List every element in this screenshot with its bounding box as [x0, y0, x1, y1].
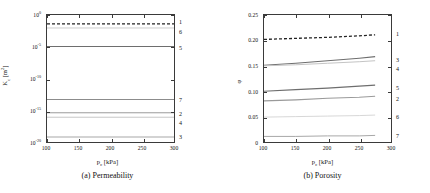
axis-tick [112, 15, 113, 18]
x-axis-title: pc [kPa] [97, 158, 118, 165]
panel-porosity: 0.25 0.20 0.15 0.10 0.05 0 100 150 200 2… [215, 0, 430, 193]
y-axis-title: Kc [m2] [1, 66, 8, 86]
axis-tick [47, 139, 48, 142]
axis-tick [171, 15, 174, 16]
curve-6 [264, 115, 375, 117]
curves-permeability [47, 15, 174, 142]
curve-label: 5 [179, 45, 182, 51]
curve-label: 7 [396, 133, 399, 139]
y-axis-title: φ [235, 80, 242, 84]
ytick-label: 10-5 [8, 44, 41, 50]
axis-tick [296, 139, 297, 142]
axis-tick [388, 67, 391, 68]
plot-area-porosity [263, 14, 392, 143]
axis-tick [47, 80, 50, 81]
curve-label: 7 [179, 97, 182, 103]
axis-tick [264, 15, 267, 16]
panel-caption: (b) Porosity [215, 171, 430, 180]
curves-svg-a [47, 15, 174, 142]
xtick-label: 200 [323, 145, 331, 151]
curve-1 [264, 35, 375, 40]
curve-7 [264, 135, 375, 136]
axis-tick [388, 41, 391, 42]
axis-tick [329, 139, 330, 142]
axis-tick [112, 139, 113, 142]
curve-label: 4 [179, 120, 182, 126]
ytick-label: 10-10 [8, 76, 41, 82]
axis-tick [79, 15, 80, 18]
ytick-label: 0.15 [225, 63, 258, 69]
axis-tick [264, 118, 267, 119]
curve-5 [264, 85, 375, 91]
ytick-label: 0.05 [225, 114, 258, 120]
axis-tick [361, 139, 362, 142]
axis-tick [47, 15, 50, 16]
ytick-label: 100 [8, 12, 41, 18]
xtick-label: 250 [138, 145, 146, 151]
ytick-label: 0.25 [225, 12, 258, 18]
axis-tick [264, 41, 267, 42]
panel-permeability: 100 10-5 10-10 10-15 10-20 100 150 200 2… [0, 0, 215, 193]
axis-tick [264, 92, 267, 93]
curve-2 [264, 96, 375, 101]
curve-label: 1 [179, 19, 182, 25]
curve-label: 6 [179, 29, 182, 35]
axis-tick [79, 139, 80, 142]
plot-area-permeability [46, 14, 175, 143]
ytick-label: 0.20 [225, 37, 258, 43]
axis-tick [329, 15, 330, 18]
panel-caption: (a) Permeability [0, 171, 215, 180]
ytick-label: 10-20 [8, 140, 41, 146]
curve-label: 5 [396, 85, 399, 91]
ytick-label: 10-15 [8, 108, 41, 114]
xtick-label: 300 [387, 145, 395, 151]
curve-label: 1 [396, 31, 399, 37]
axis-tick [388, 92, 391, 93]
ytick-label: 0.10 [225, 89, 258, 95]
xtick-label: 150 [74, 145, 82, 151]
curves-porosity [264, 15, 391, 142]
axis-tick [171, 112, 174, 113]
axis-tick [144, 139, 145, 142]
curve-label: 2 [179, 111, 182, 117]
ytick-label: 0 [225, 140, 258, 146]
axis-tick [264, 67, 267, 68]
xtick-label: 200 [106, 145, 114, 151]
curve-label: 3 [396, 57, 399, 63]
axis-tick [171, 47, 174, 48]
xtick-label: 250 [355, 145, 363, 151]
axis-tick [361, 15, 362, 18]
axis-tick [296, 15, 297, 18]
curve-label: 2 [396, 96, 399, 102]
curve-label: 4 [396, 66, 399, 72]
figure-two-panel: 100 10-5 10-10 10-15 10-20 100 150 200 2… [0, 0, 430, 193]
xtick-label: 100 [259, 145, 267, 151]
axis-tick [47, 112, 50, 113]
axis-tick [388, 15, 391, 16]
curve-label: 3 [179, 134, 182, 140]
axis-tick [144, 15, 145, 18]
xtick-label: 150 [291, 145, 299, 151]
axis-tick [264, 139, 265, 142]
axis-tick [171, 80, 174, 81]
xtick-label: 100 [42, 145, 50, 151]
axis-tick [388, 118, 391, 119]
xtick-label: 300 [170, 145, 178, 151]
x-axis-title: pc [kPa] [312, 158, 333, 165]
curves-svg-b [264, 15, 391, 142]
axis-tick [47, 47, 50, 48]
curve-label: 6 [396, 114, 399, 120]
